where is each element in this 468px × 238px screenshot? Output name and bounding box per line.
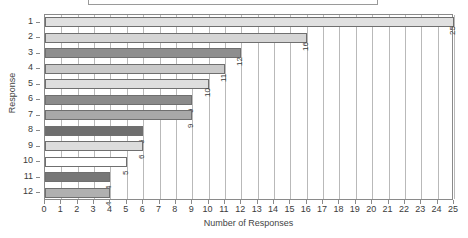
x-tick-mark bbox=[388, 200, 389, 204]
x-tick-mark bbox=[453, 200, 454, 204]
x-tick-label: 21 bbox=[383, 205, 393, 214]
x-tick-label: 13 bbox=[252, 205, 262, 214]
x-tick-mark bbox=[289, 200, 290, 204]
x-tick-label: 0 bbox=[41, 205, 46, 214]
bar-row: 9 bbox=[45, 93, 454, 109]
x-tick-label: 9 bbox=[189, 205, 194, 214]
x-tick-mark bbox=[159, 200, 160, 204]
x-tick-mark bbox=[44, 200, 45, 204]
x-tick-mark bbox=[93, 200, 94, 204]
x-tick-mark bbox=[109, 200, 110, 204]
x-tick-mark bbox=[322, 200, 323, 204]
bar-row: 10 bbox=[45, 77, 454, 93]
y-tick-mark bbox=[36, 115, 40, 116]
x-tick-label: 20 bbox=[366, 205, 376, 214]
bar-row: 16 bbox=[45, 31, 454, 47]
x-tick-mark bbox=[240, 200, 241, 204]
y-tick-label: 3 bbox=[28, 48, 33, 57]
y-tick-mark bbox=[36, 177, 40, 178]
bar-row: 11 bbox=[45, 62, 454, 78]
x-axis-tick-labels: 0123456789101112131415161718192021222324… bbox=[44, 200, 453, 216]
bar[interactable] bbox=[45, 172, 110, 182]
x-tick-label: 16 bbox=[301, 205, 311, 214]
bar[interactable] bbox=[45, 33, 307, 43]
bar[interactable] bbox=[45, 79, 209, 89]
x-tick-label: 14 bbox=[268, 205, 278, 214]
bar[interactable] bbox=[45, 157, 127, 167]
x-tick-mark bbox=[126, 200, 127, 204]
x-tick-label: 4 bbox=[107, 205, 112, 214]
bar-row: 12 bbox=[45, 46, 454, 62]
y-tick-mark bbox=[36, 37, 40, 38]
bar-row: 4 bbox=[45, 170, 454, 186]
y-tick-label: 1 bbox=[28, 17, 33, 26]
x-axis-title: Number of Responses bbox=[44, 218, 453, 228]
x-tick-label: 8 bbox=[172, 205, 177, 214]
x-tick-label: 15 bbox=[284, 205, 294, 214]
y-tick-label: 6 bbox=[28, 94, 33, 103]
y-tick-label: 5 bbox=[28, 79, 33, 88]
y-tick-label: 2 bbox=[28, 32, 33, 41]
y-tick-mark bbox=[36, 146, 40, 147]
x-tick-label: 12 bbox=[235, 205, 245, 214]
y-tick-label: 8 bbox=[28, 125, 33, 134]
x-tick-mark bbox=[257, 200, 258, 204]
x-tick-mark bbox=[371, 200, 372, 204]
x-tick-label: 24 bbox=[432, 205, 442, 214]
x-tick-label: 23 bbox=[415, 205, 425, 214]
y-axis-tick-labels: 123456789101112 bbox=[0, 14, 40, 200]
x-tick-mark bbox=[191, 200, 192, 204]
x-tick-label: 3 bbox=[91, 205, 96, 214]
x-tick-label: 19 bbox=[350, 205, 360, 214]
y-tick-label: 11 bbox=[24, 172, 33, 181]
x-tick-label: 22 bbox=[399, 205, 409, 214]
bar-row: 6 bbox=[45, 124, 454, 140]
bar[interactable] bbox=[45, 17, 454, 27]
bar[interactable] bbox=[45, 188, 110, 198]
x-tick-label: 7 bbox=[156, 205, 161, 214]
y-tick-mark bbox=[36, 130, 40, 131]
x-tick-mark bbox=[77, 200, 78, 204]
gridline bbox=[454, 15, 455, 199]
y-tick-label: 4 bbox=[28, 63, 33, 72]
x-tick-mark bbox=[355, 200, 356, 204]
bar-series: 25161211109966544 bbox=[45, 15, 452, 199]
bar-row: 25 bbox=[45, 15, 454, 31]
x-tick-mark bbox=[224, 200, 225, 204]
bar[interactable] bbox=[45, 110, 192, 120]
y-tick-mark bbox=[36, 84, 40, 85]
x-tick-mark bbox=[208, 200, 209, 204]
x-tick-label: 18 bbox=[333, 205, 343, 214]
y-tick-label: 10 bbox=[23, 156, 33, 165]
x-tick-mark bbox=[306, 200, 307, 204]
bar-row: 9 bbox=[45, 108, 454, 124]
bar[interactable] bbox=[45, 126, 143, 136]
plot-area: 25161211109966544 bbox=[44, 14, 453, 200]
bar-row: 6 bbox=[45, 139, 454, 155]
x-tick-label: 25 bbox=[448, 205, 458, 214]
chart-title-box bbox=[88, 0, 378, 5]
y-tick-label: 12 bbox=[23, 187, 33, 196]
x-tick-mark bbox=[175, 200, 176, 204]
y-tick-mark bbox=[36, 53, 40, 54]
bar[interactable] bbox=[45, 48, 241, 58]
x-tick-label: 17 bbox=[317, 205, 327, 214]
y-tick-mark bbox=[36, 161, 40, 162]
bar[interactable] bbox=[45, 64, 225, 74]
y-tick-mark bbox=[36, 99, 40, 100]
x-tick-label: 10 bbox=[203, 205, 213, 214]
x-tick-mark bbox=[420, 200, 421, 204]
x-tick-mark bbox=[404, 200, 405, 204]
y-tick-mark bbox=[36, 68, 40, 69]
bar-row: 5 bbox=[45, 155, 454, 171]
bar[interactable] bbox=[45, 95, 192, 105]
x-tick-mark bbox=[338, 200, 339, 204]
bar-chart-figure: Response 123456789101112 251612111099665… bbox=[0, 0, 468, 238]
x-tick-mark bbox=[142, 200, 143, 204]
x-tick-label: 1 bbox=[58, 205, 63, 214]
y-tick-label: 7 bbox=[28, 110, 33, 119]
x-tick-label: 11 bbox=[219, 205, 228, 214]
bar[interactable] bbox=[45, 141, 143, 151]
y-tick-mark bbox=[36, 192, 40, 193]
x-tick-mark bbox=[60, 200, 61, 204]
